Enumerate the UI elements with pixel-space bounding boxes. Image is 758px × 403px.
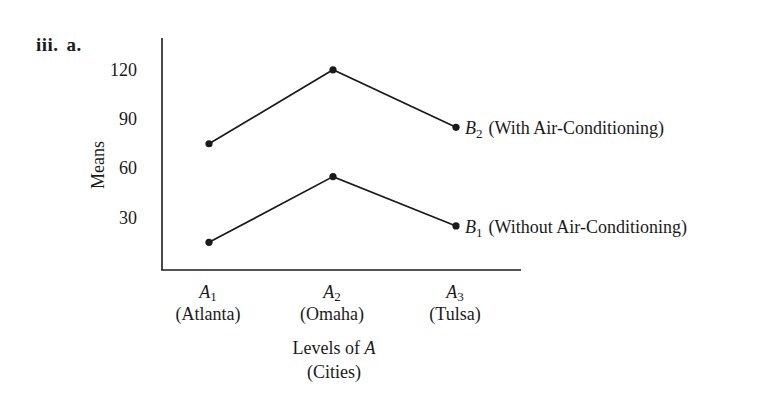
y-axis-label: Means — [88, 141, 108, 189]
data-point — [205, 239, 212, 246]
data-point — [205, 140, 212, 147]
series-b2 — [205, 66, 459, 147]
series-line — [209, 70, 456, 144]
x-axis-sublabel: (Cities) — [307, 362, 361, 383]
data-point — [452, 124, 459, 131]
y-tick-label: 30 — [119, 208, 137, 228]
series-line — [209, 177, 456, 243]
data-point — [329, 173, 336, 180]
category-symbol: A3 — [445, 282, 464, 304]
y-tick-label: 60 — [119, 158, 137, 178]
category-symbol: A1 — [198, 282, 217, 304]
x-category-labels: A1(Atlanta)A2(Omaha)A3(Tulsa) — [176, 282, 481, 325]
x-category: A3(Tulsa) — [429, 282, 480, 325]
series-b1 — [205, 173, 459, 246]
category-symbol: A2 — [322, 282, 341, 304]
series-label: B1(Without Air-Conditioning) — [465, 217, 687, 240]
category-name: (Omaha) — [300, 304, 364, 325]
data-point — [452, 222, 459, 229]
y-tick-labels: 306090120 — [110, 60, 137, 228]
line-chart: 306090120 Means B2(With Air-Conditioning… — [0, 0, 758, 403]
x-category: A1(Atlanta) — [176, 282, 241, 325]
data-point — [329, 66, 336, 73]
category-name: (Tulsa) — [429, 304, 480, 325]
series-label: B2(With Air-Conditioning) — [465, 118, 664, 141]
series-legend-labels: B2(With Air-Conditioning)B1(Without Air-… — [465, 118, 687, 240]
series-lines — [205, 66, 459, 246]
x-axis-label: Levels of A — [293, 338, 377, 358]
y-tick-label: 90 — [119, 109, 137, 129]
y-tick-label: 120 — [110, 60, 137, 80]
x-category: A2(Omaha) — [300, 282, 364, 325]
category-name: (Atlanta) — [176, 304, 241, 325]
